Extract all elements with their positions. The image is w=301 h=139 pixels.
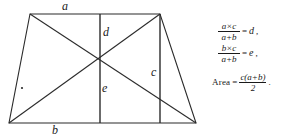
side-label-b: b [52, 124, 58, 136]
fraction-c-a-plus-b-over-2: c(a+b) 2 [239, 72, 266, 93]
fraction-b-times-c-over-a-plus-b: b×c a+b [218, 43, 240, 64]
figure-page: a b c d e a×c a+b = d , b×c a+b = e , [0, 0, 301, 139]
trapezoid-svg [0, 0, 210, 139]
equals-sign: = [230, 78, 239, 87]
area-label: Area [212, 78, 230, 87]
diagonal-top-right-to-bottom-left [9, 14, 160, 123]
diagonal-top-left-to-bottom-right [30, 14, 196, 123]
formula-e: b×c a+b = e , [218, 42, 301, 64]
fraction-denominator: a+b [220, 54, 237, 64]
formula-list: a×c a+b = d , b×c a+b = e , Area = c(a+b… [212, 20, 301, 120]
side-label-a: a [62, 0, 68, 12]
trailing-comma: , [254, 49, 258, 58]
segment-label-e: e [102, 82, 107, 94]
trailing-period: . [266, 78, 270, 87]
equals-sign: = [240, 27, 249, 36]
trailing-comma: , [254, 27, 258, 36]
segment-label-d: d [103, 26, 109, 38]
fraction-numerator: a×c [221, 21, 238, 31]
fraction-numerator: c(a+b) [239, 72, 266, 82]
interior-dot [21, 87, 23, 89]
trapezoid-figure: a b c d e [0, 0, 210, 139]
formula-area: Area = c(a+b) 2 . [212, 70, 301, 94]
fraction-denominator: a+b [220, 32, 237, 42]
fraction-numerator: b×c [221, 43, 238, 53]
equals-sign: = [240, 49, 249, 58]
formula-d: a×c a+b = d , [218, 20, 301, 42]
fraction-a-times-c-over-a-plus-b: a×c a+b [218, 21, 240, 42]
side-label-c: c [151, 66, 156, 78]
fraction-denominator: 2 [250, 83, 257, 93]
